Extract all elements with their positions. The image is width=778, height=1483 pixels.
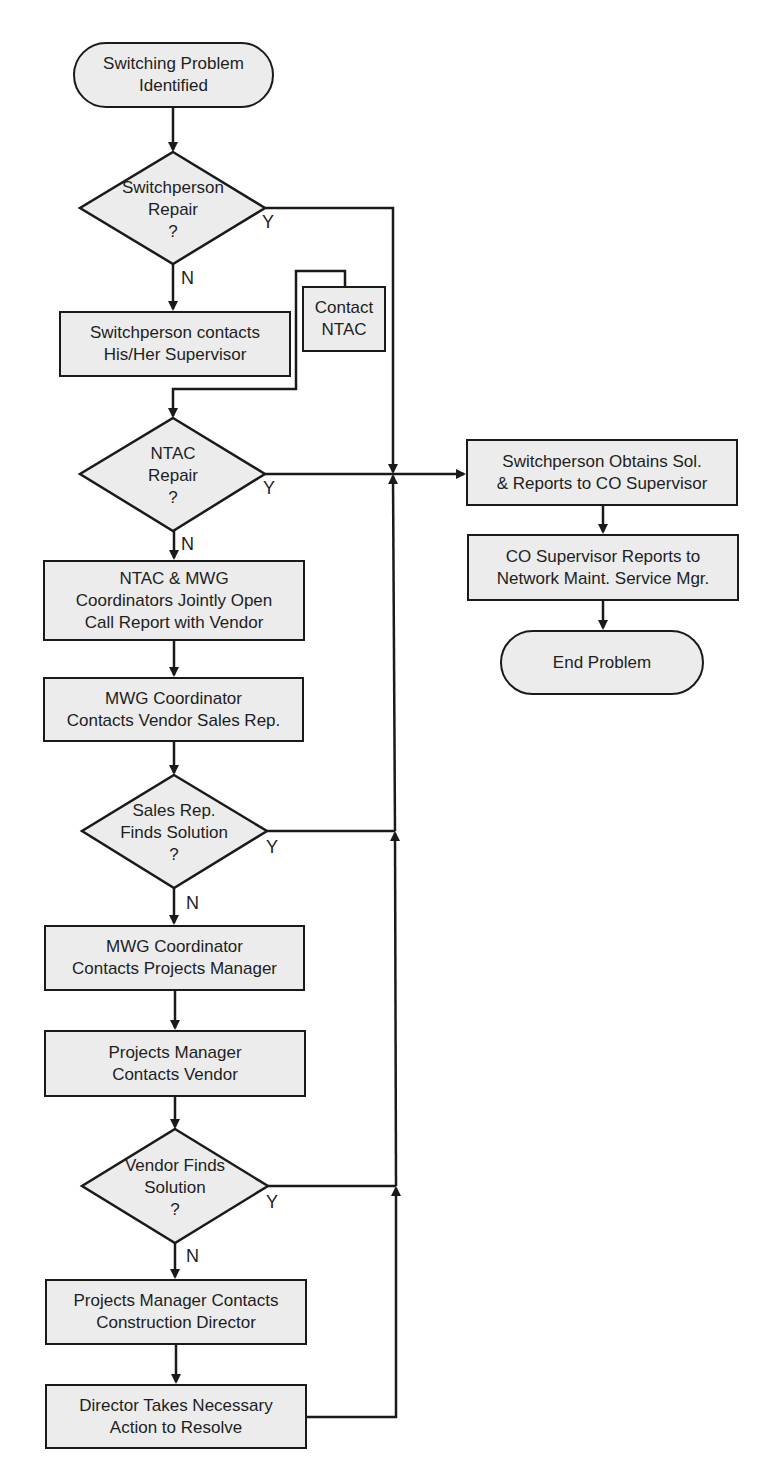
process-line1: Contact: [315, 297, 374, 319]
process-line2: NTAC: [321, 319, 366, 341]
process-line1: CO Supervisor Reports to: [506, 546, 701, 568]
process-line1: Director Takes Necessary: [79, 1395, 272, 1417]
decision-ntac-repair: NTAC Repair ?: [95, 441, 251, 511]
start-label-line2: Identified: [139, 75, 208, 97]
process-contact-ntac: Contact NTAC: [302, 286, 386, 352]
yes-label: Y: [262, 212, 274, 233]
process-line2: Construction Director: [96, 1312, 256, 1334]
decision-line1: Vendor Finds: [125, 1155, 225, 1177]
decision-switchperson-repair: Switchperson Repair ?: [95, 175, 251, 245]
process-contact-projects-manager: MWG Coordinator Contacts Projects Manage…: [44, 925, 305, 991]
decision-sales-rep-solution: Sales Rep. Finds Solution ?: [96, 798, 252, 868]
process-co-supervisor-reports: CO Supervisor Reports to Network Maint. …: [467, 534, 739, 601]
process-line2: Action to Resolve: [110, 1417, 242, 1439]
decision-vendor-solution: Vendor Finds Solution ?: [97, 1153, 253, 1223]
no-label: N: [186, 893, 199, 914]
process-line2: His/Her Supervisor: [104, 344, 247, 366]
process-line1: Switchperson contacts: [90, 322, 260, 344]
decision-line2: Repair: [148, 465, 198, 487]
decision-line3: ?: [169, 844, 178, 866]
start-terminal: Switching Problem Identified: [73, 42, 274, 108]
process-line2: Contacts Projects Manager: [72, 958, 277, 980]
process-line3: Call Report with Vendor: [85, 612, 264, 634]
process-contact-sales-rep: MWG Coordinator Contacts Vendor Sales Re…: [43, 677, 304, 742]
process-line2: Contacts Vendor Sales Rep.: [67, 710, 281, 732]
process-line2: Network Maint. Service Mgr.: [497, 568, 710, 590]
decision-line2: Finds Solution: [120, 822, 228, 844]
process-contact-construction-director: Projects Manager Contacts Construction D…: [45, 1279, 307, 1345]
decision-line2: Solution: [144, 1177, 205, 1199]
decision-line2: Repair: [148, 199, 198, 221]
process-line1: MWG Coordinator: [106, 936, 243, 958]
decision-line3: ?: [168, 221, 177, 243]
yes-label: Y: [263, 478, 275, 499]
process-director-action: Director Takes Necessary Action to Resol…: [45, 1384, 307, 1449]
process-line1: Projects Manager Contacts: [73, 1290, 278, 1312]
yes-label: Y: [266, 1192, 278, 1213]
decision-line1: Sales Rep.: [132, 800, 215, 822]
process-line1: Switchperson Obtains Sol.: [502, 451, 701, 473]
end-terminal: End Problem: [500, 630, 704, 695]
decision-line1: Switchperson: [122, 177, 224, 199]
process-contact-supervisor: Switchperson contacts His/Her Supervisor: [59, 311, 291, 377]
start-label-line1: Switching Problem: [103, 53, 244, 75]
process-pm-contacts-vendor: Projects Manager Contacts Vendor: [44, 1030, 306, 1097]
process-line1: NTAC & MWG: [119, 568, 228, 590]
process-jointly-open-call-report: NTAC & MWG Coordinators Jointly Open Cal…: [43, 560, 305, 641]
decision-line3: ?: [168, 487, 177, 509]
no-label: N: [186, 1246, 199, 1267]
decision-line3: ?: [170, 1199, 179, 1221]
process-line2: Contacts Vendor: [112, 1064, 238, 1086]
end-label: End Problem: [553, 652, 651, 674]
no-label: N: [181, 268, 194, 289]
process-line2: Coordinators Jointly Open: [76, 590, 273, 612]
no-label: N: [181, 534, 194, 555]
process-obtains-solution: Switchperson Obtains Sol. & Reports to C…: [466, 439, 738, 506]
process-line2: & Reports to CO Supervisor: [497, 473, 708, 495]
yes-label: Y: [266, 837, 278, 858]
decision-line1: NTAC: [150, 443, 195, 465]
process-line1: MWG Coordinator: [105, 688, 242, 710]
process-line1: Projects Manager: [108, 1042, 241, 1064]
